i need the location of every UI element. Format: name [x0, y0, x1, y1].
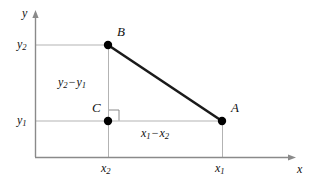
helper-lines	[35, 45, 223, 157]
point-A-marker	[218, 117, 226, 125]
y-axis-arrowhead	[32, 10, 38, 18]
point-label-C: C	[92, 101, 101, 114]
x-tick-x2-subscript: 2	[106, 166, 110, 176]
segment-BA	[108, 45, 222, 121]
diagram-canvas	[0, 0, 315, 182]
y-tick-y1-subscript: 1	[22, 118, 26, 128]
x-tick-label-x1: x1	[215, 162, 225, 176]
point-label-A: A	[231, 101, 239, 114]
point-C-marker	[104, 117, 112, 125]
y-axis-label: y	[22, 7, 27, 19]
point-B-marker	[104, 41, 112, 49]
horizontal-leg-term2-subscript: 2	[165, 131, 169, 141]
y-tick-y2-subscript: 2	[22, 42, 26, 52]
x-tick-x1-subscript: 1	[220, 166, 224, 176]
x-axis-arrowhead	[288, 154, 296, 160]
horizontal-leg-length-label: x1−x2	[141, 127, 169, 141]
x-tick-label-x2: x2	[101, 162, 111, 176]
horizontal-leg-term1-subscript: 1	[146, 131, 150, 141]
vertical-leg-length-label: y2−y1	[58, 76, 86, 90]
point-label-B: B	[117, 25, 125, 38]
y-tick-label-y1: y1	[17, 114, 27, 128]
y-tick-label-y2: y2	[17, 38, 27, 52]
x-axis-label: x	[297, 163, 302, 175]
vertical-leg-term1-subscript: 2	[63, 80, 67, 90]
vertical-leg-term2-subscript: 1	[82, 80, 86, 90]
distance-formula-diagram: B A C y x y2 y1 x2 x1 y2−y1 x1−x2	[0, 0, 315, 182]
